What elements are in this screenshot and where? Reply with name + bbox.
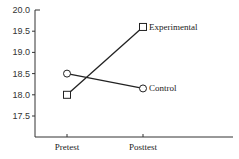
circle-marker xyxy=(64,70,71,77)
y-tick-label: 17.5 xyxy=(12,111,30,121)
y-tick-label: 19.5 xyxy=(12,26,30,36)
y-tick-label: 18.0 xyxy=(12,90,30,100)
y-tick-label: 18.5 xyxy=(12,69,30,79)
y-axis-ticks: 20.019.519.018.518.017.5 xyxy=(12,5,35,121)
x-category-label: Posttest xyxy=(129,142,158,152)
circle-marker xyxy=(140,85,147,92)
x-category-label: Pretest xyxy=(55,142,80,152)
series-lines: ExperimentalControl xyxy=(64,22,198,98)
square-marker xyxy=(140,23,147,30)
series-line xyxy=(67,74,143,89)
series-label: Control xyxy=(149,83,177,93)
y-tick-label: 20.0 xyxy=(12,5,30,15)
series-line xyxy=(67,27,143,95)
series-label: Experimental xyxy=(149,22,198,32)
series-control: Control xyxy=(64,70,178,93)
y-tick-label: 19.0 xyxy=(12,47,30,57)
line-chart: 20.019.519.018.518.017.5 PretestPosttest… xyxy=(0,0,239,159)
series-experimental: Experimental xyxy=(64,22,198,98)
square-marker xyxy=(64,91,71,98)
